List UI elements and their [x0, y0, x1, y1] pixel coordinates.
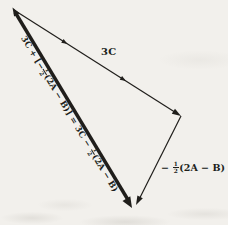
vector-side-arrowhead	[136, 196, 143, 205]
vector-3c-label: 3C	[101, 46, 117, 58]
side-label-minus: −	[161, 162, 172, 173]
fraction-denominator: 2	[173, 167, 179, 174]
vector-3c-direction-tick-1	[61, 39, 67, 44]
vector-addition-figure: 3C − 12(2A − B) 3C + [−12(2A − B)] = 3C …	[0, 0, 228, 225]
side-vector-label: − 12(2A − B)	[161, 161, 225, 174]
side-label-fraction: 12	[173, 161, 179, 174]
side-label-expression: (2A − B)	[179, 162, 225, 173]
vector-3c-arrowhead	[172, 109, 181, 116]
vector-3c-direction-tick-2	[120, 76, 126, 81]
vector-side-line	[140, 116, 182, 199]
